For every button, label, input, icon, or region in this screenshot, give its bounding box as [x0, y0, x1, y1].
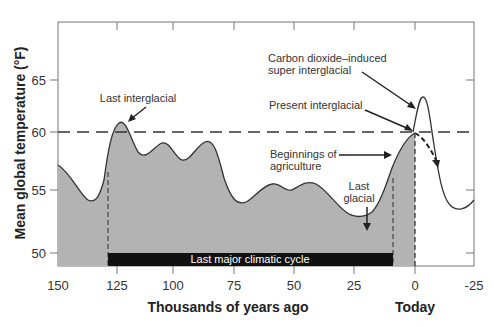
x-tick-0: 0	[411, 278, 418, 293]
climatic-cycle-label: Last major climatic cycle	[190, 253, 309, 265]
x-tick-50: 50	[287, 278, 301, 293]
annotation-agriculture-line2: agriculture	[270, 160, 321, 172]
climate-chart: Last major climatic cycle 65 60 55 50 15…	[0, 0, 494, 327]
y-tick-65: 65	[32, 73, 46, 88]
natural-trend-arrowhead	[432, 160, 440, 168]
agriculture-arrowhead	[384, 151, 392, 159]
annotation-last-glacial-line2: glacial	[343, 192, 374, 204]
annotation-last-glacial-line1: Last	[349, 180, 370, 192]
x-tick-25: 25	[347, 278, 361, 293]
present-interglacial-arrowhead	[404, 124, 413, 131]
x-tick-100: 100	[162, 278, 184, 293]
annotation-agriculture-line1: Beginnings of	[270, 148, 338, 160]
present-interglacial-arrow	[365, 110, 409, 129]
annotation-last-interglacial: Last interglacial	[100, 92, 176, 104]
annotation-present-interglacial: Present interglacial	[269, 99, 363, 111]
x-tick-minus25: -25	[465, 278, 484, 293]
today-label: Today	[395, 299, 435, 315]
co2-projection-line	[413, 97, 474, 209]
x-tick-125: 125	[106, 278, 128, 293]
co2-arrowhead	[407, 101, 416, 109]
x-axis-title: Thousands of years ago	[147, 299, 308, 315]
y-tick-50: 50	[32, 246, 46, 261]
co2-arrow	[362, 72, 412, 106]
x-tick-150: 150	[47, 278, 69, 293]
y-axis-title: Mean global temperature (°F)	[12, 46, 28, 239]
annotation-co2-line2: super interglacial	[268, 64, 351, 76]
x-tick-75: 75	[227, 278, 241, 293]
y-tick-60: 60	[32, 125, 46, 140]
annotation-co2-line1: Carbon dioxide–induced	[268, 52, 387, 64]
y-tick-55: 55	[32, 183, 46, 198]
